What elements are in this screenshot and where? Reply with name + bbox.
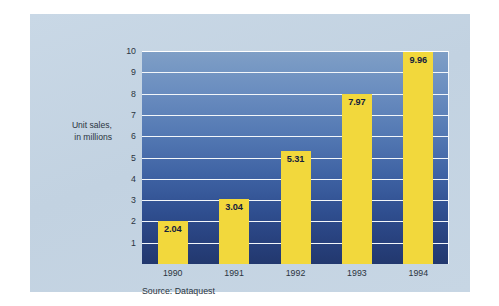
x-axis-tick-labels: 19901991199219931994 [142,268,449,280]
y-axis-tick-label: 10 [112,47,136,56]
y-axis-label: Unit sales, in millions [40,120,112,143]
bar-value-label: 7.97 [342,97,372,107]
y-axis-tick-label: 3 [112,196,136,205]
bar[interactable]: 2.04 [158,221,188,264]
y-axis-tick-label: 8 [112,89,136,98]
y-axis-tick-labels: 12345678910 [112,51,136,264]
y-axis-tick-label: 1 [112,238,136,247]
y-axis-label-line-1: Unit sales, [40,120,112,132]
y-axis-tick-label: 7 [112,110,136,119]
bar-value-label: 9.96 [403,55,433,65]
x-axis-tick-label: 1990 [163,268,183,278]
plot-area: 2.043.045.317.979.96 [142,51,449,264]
y-axis-label-line-2: in millions [40,132,112,144]
chart-card: Unit sales, in millions 12345678910 2.04… [30,14,470,292]
y-axis-tick-label: 6 [112,132,136,141]
x-axis-tick-label: 1993 [347,268,367,278]
bar-value-label: 2.04 [158,224,188,234]
y-axis-tick-label: 9 [112,68,136,77]
y-axis-tick-label: 2 [112,217,136,226]
bar-value-label: 3.04 [219,202,249,212]
bar-value-label: 5.31 [281,154,311,164]
source-note: Source: Dataquest [142,286,215,296]
bar[interactable]: 7.97 [342,94,372,264]
bar[interactable]: 5.31 [281,151,311,264]
x-axis-tick-label: 1991 [224,268,244,278]
bars-layer: 2.043.045.317.979.96 [142,51,448,264]
x-axis-tick-label: 1994 [409,268,429,278]
bar[interactable]: 3.04 [219,199,249,264]
y-axis-tick-label: 5 [112,153,136,162]
bar[interactable]: 9.96 [403,52,433,264]
y-axis-tick-label: 4 [112,174,136,183]
x-axis-tick-label: 1992 [286,268,306,278]
